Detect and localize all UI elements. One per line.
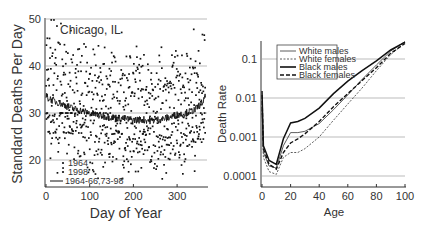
left-y-axis-label: Standard Deaths Per Day — [9, 24, 25, 184]
left-ytick-50: 50 — [29, 13, 41, 25]
right-ytick-0.001: 0.001 — [229, 131, 257, 143]
left-scatter-chart: 50 40 30 20 0 100 200 300 Day of Year St… — [9, 13, 208, 221]
right-xtick-100: 100 — [396, 190, 414, 202]
left-annotation: Chicago, IL — [60, 23, 121, 37]
left-x-axis-label: Day of Year — [90, 205, 163, 221]
left-scatter-points — [45, 19, 206, 180]
legend-black-females: Black females — [299, 70, 356, 80]
right-xtick-80: 80 — [370, 190, 382, 202]
left-xtick-300: 300 — [168, 190, 186, 202]
right-x-axis-label: Age — [324, 206, 344, 218]
right-ytick-0.1: 0.1 — [242, 53, 257, 65]
right-xtick-0: 0 — [259, 190, 265, 202]
right-xtick-60: 60 — [342, 190, 354, 202]
right-y-axis-label: Death Rate — [216, 85, 228, 143]
right-ytick-0.01: 0.01 — [236, 92, 257, 104]
right-xtick-40: 40 — [313, 190, 325, 202]
left-ytick-20: 20 — [29, 154, 41, 166]
legend-average: 1964-66,73-98 — [65, 176, 124, 186]
left-ytick-40: 40 — [29, 60, 41, 72]
left-xtick-0: 0 — [43, 190, 49, 202]
left-xtick-100: 100 — [81, 190, 99, 202]
right-xtick-20: 20 — [284, 190, 296, 202]
right-legend: White males White females Black males Bl… — [277, 45, 357, 80]
left-xtick-200: 200 — [124, 190, 142, 202]
right-ytick-0.0001: 0.0001 — [223, 170, 257, 182]
left-ytick-30: 30 — [29, 107, 41, 119]
right-line-chart: White males White females Black males Bl… — [216, 41, 414, 218]
figure: 50 40 30 20 0 100 200 300 Day of Year St… — [0, 0, 424, 227]
